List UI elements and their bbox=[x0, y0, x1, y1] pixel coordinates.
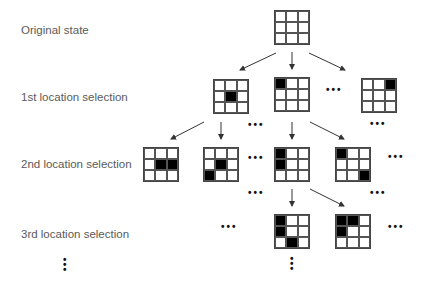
grid-r3-a bbox=[274, 214, 310, 249]
ellipsis-vertical-icon: ••• bbox=[290, 256, 294, 271]
grid-r1-a bbox=[213, 79, 249, 114]
cell-empty bbox=[215, 170, 226, 181]
cell-selected bbox=[275, 78, 286, 89]
cell-empty bbox=[275, 100, 286, 111]
cell-empty bbox=[373, 79, 384, 90]
cell-empty bbox=[214, 91, 225, 102]
ellipsis-horizontal-icon: ••• bbox=[221, 223, 238, 231]
cell-selected bbox=[336, 148, 347, 159]
label-second-selection: 2nd location selection bbox=[21, 158, 132, 170]
ellipsis-horizontal-icon: ••• bbox=[326, 86, 343, 94]
cell-empty bbox=[144, 148, 155, 159]
cell-empty bbox=[359, 226, 370, 237]
cell-empty bbox=[275, 33, 286, 44]
cell-empty bbox=[286, 11, 297, 22]
cell-selected bbox=[275, 159, 286, 170]
cell-empty bbox=[225, 80, 236, 91]
cell-empty bbox=[286, 33, 297, 44]
cell-empty bbox=[225, 102, 236, 113]
cell-empty bbox=[347, 148, 358, 159]
cell-empty bbox=[298, 89, 309, 100]
cell-selected bbox=[275, 215, 286, 226]
cell-empty bbox=[298, 215, 309, 226]
ellipsis-horizontal-icon: ••• bbox=[370, 120, 387, 128]
label-third-selection: 3rd location selection bbox=[21, 228, 129, 240]
cell-empty bbox=[237, 102, 248, 113]
cell-empty bbox=[155, 170, 166, 181]
cell-empty bbox=[298, 33, 309, 44]
cell-empty bbox=[167, 148, 178, 159]
cell-empty bbox=[275, 11, 286, 22]
cell-empty bbox=[362, 79, 373, 90]
cell-empty bbox=[336, 159, 347, 170]
cell-selected bbox=[215, 159, 226, 170]
cell-empty bbox=[214, 102, 225, 113]
cell-empty bbox=[167, 170, 178, 181]
cell-selected bbox=[385, 79, 396, 90]
ellipsis-horizontal-icon: ••• bbox=[388, 223, 405, 231]
cell-empty bbox=[298, 22, 309, 33]
grid-r3-b bbox=[335, 214, 371, 249]
arrow-icon bbox=[171, 122, 204, 139]
cell-selected bbox=[347, 215, 358, 226]
cell-empty bbox=[275, 22, 286, 33]
cell-selected bbox=[225, 91, 236, 102]
cell-selected bbox=[275, 148, 286, 159]
cell-selected bbox=[275, 226, 286, 237]
grid-original bbox=[274, 10, 310, 45]
cell-empty bbox=[298, 78, 309, 89]
ellipsis-horizontal-icon: ••• bbox=[388, 153, 405, 161]
cell-empty bbox=[144, 170, 155, 181]
cell-selected bbox=[336, 226, 347, 237]
cell-empty bbox=[237, 91, 248, 102]
grid-r2-b bbox=[203, 147, 239, 182]
ellipsis-horizontal-icon: ••• bbox=[248, 189, 265, 197]
arrow-icon bbox=[310, 189, 344, 206]
arrow-icon bbox=[309, 53, 345, 70]
cell-empty bbox=[286, 215, 297, 226]
cell-empty bbox=[275, 237, 286, 248]
cell-empty bbox=[227, 148, 238, 159]
cell-empty bbox=[359, 237, 370, 248]
cell-empty bbox=[215, 148, 226, 159]
grid-r2-c bbox=[274, 147, 310, 182]
cell-selected bbox=[167, 159, 178, 170]
grid-r1-b bbox=[274, 77, 310, 112]
cell-empty bbox=[227, 159, 238, 170]
grid-r1-c bbox=[361, 78, 397, 113]
cell-empty bbox=[286, 22, 297, 33]
cell-empty bbox=[204, 148, 215, 159]
cell-empty bbox=[347, 226, 358, 237]
cell-empty bbox=[298, 148, 309, 159]
label-original-state: Original state bbox=[21, 24, 89, 36]
cell-empty bbox=[336, 170, 347, 181]
cell-empty bbox=[275, 170, 286, 181]
cell-empty bbox=[336, 237, 347, 248]
cell-empty bbox=[385, 101, 396, 112]
cell-empty bbox=[155, 148, 166, 159]
cell-empty bbox=[227, 170, 238, 181]
cell-empty bbox=[385, 90, 396, 101]
arrow-icon bbox=[240, 53, 276, 70]
cell-empty bbox=[237, 80, 248, 91]
cell-empty bbox=[298, 100, 309, 111]
cell-empty bbox=[298, 11, 309, 22]
cell-empty bbox=[362, 101, 373, 112]
cell-empty bbox=[359, 148, 370, 159]
arrow-icon bbox=[310, 122, 344, 139]
cell-empty bbox=[298, 226, 309, 237]
cell-selected bbox=[359, 170, 370, 181]
ellipsis-horizontal-icon: ••• bbox=[248, 154, 265, 162]
cell-empty bbox=[286, 159, 297, 170]
cell-selected bbox=[286, 237, 297, 248]
cell-empty bbox=[347, 237, 358, 248]
cell-empty bbox=[286, 100, 297, 111]
cell-selected bbox=[155, 159, 166, 170]
cell-empty bbox=[286, 148, 297, 159]
cell-empty bbox=[298, 237, 309, 248]
cell-empty bbox=[298, 170, 309, 181]
cell-empty bbox=[286, 89, 297, 100]
cell-empty bbox=[204, 159, 215, 170]
cell-empty bbox=[347, 170, 358, 181]
cell-empty bbox=[286, 170, 297, 181]
